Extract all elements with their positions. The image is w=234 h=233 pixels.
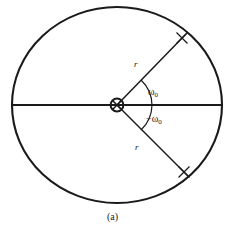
angle-label-negative-subscript: 0 [158, 118, 162, 126]
angle-label-positive: ω0 [148, 87, 158, 99]
angle-label-negative: −ω0 [146, 114, 162, 126]
angle-label-negative-symbol: −ω [146, 113, 158, 124]
radius-label-upper: r [134, 60, 138, 69]
pole-x-marker-lower [179, 167, 190, 178]
radius-label-lower: r [135, 143, 139, 152]
angle-label-positive-symbol: ω [148, 86, 155, 97]
figure-container: r r ω0 −ω0 (a) [0, 0, 234, 233]
angle-label-positive-subscript: 0 [155, 91, 159, 99]
figure-caption: (a) [107, 212, 118, 222]
pole-zero-diagram [0, 0, 234, 233]
pole-x-marker-upper [177, 33, 188, 44]
